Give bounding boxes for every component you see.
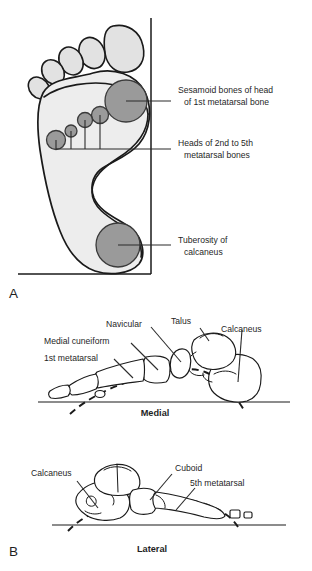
lateral-cuboid-label: Cuboid xyxy=(175,463,202,473)
sesamoid-callout-line2: of 1st metatarsal bone xyxy=(184,97,269,107)
medial-talus-label: Talus xyxy=(171,316,191,326)
medial-cuneiform-bone xyxy=(143,356,170,383)
panel-b-letter: B xyxy=(9,544,18,559)
medial-sesamoid-bone xyxy=(95,391,105,398)
lateral-fifth-distal-phalanx xyxy=(244,512,252,518)
lateral-fifth-metatarsal-bone xyxy=(153,492,225,519)
lateral-fifth-proximal-phalanx xyxy=(230,510,240,518)
sesamoid-callout-line1: Sesamoid bones of head xyxy=(178,85,273,95)
medial-cuneiform-label: Medial cuneiform xyxy=(44,336,109,346)
panel-a-group: Sesamoid bones of head of 1st metatarsal… xyxy=(9,18,273,301)
medial-calcaneus-label: Calcaneus xyxy=(221,324,262,334)
lateral-fifth-metatarsal-label: 5th metatarsal xyxy=(190,478,245,488)
great-toe xyxy=(104,25,143,72)
medial-hallux-proximal-phalanx xyxy=(68,374,98,395)
lateral-view-label: Lateral xyxy=(137,544,167,554)
calcaneal-tuberosity-callout-line1: Tuberosity of xyxy=(178,235,228,245)
foot-anatomy-illustration: Sesamoid bones of head of 1st metatarsal… xyxy=(0,0,312,571)
lateral-calcaneus-label: Calcaneus xyxy=(31,468,72,478)
metatarsal-heads-callout-line1: Heads of 2nd to 5th xyxy=(178,138,253,148)
anatomy-figure: Sesamoid bones of head of 1st metatarsal… xyxy=(0,0,312,571)
metatarsal-heads-callout-line2: metatarsal bones xyxy=(184,150,250,160)
medial-talus-bone xyxy=(192,333,236,369)
panel-b-lateral-group: Calcaneus Cuboid 5th metatarsal Lateral … xyxy=(9,463,286,559)
medial-first-metatarsal-label: 1st metatarsal xyxy=(44,353,98,363)
medial-first-metatarsal-bone xyxy=(94,359,144,388)
panel-b-medial-group: Talus Calcaneus Navicular Medial cuneifo… xyxy=(38,316,290,418)
medial-view-label: Medial xyxy=(141,408,170,418)
medial-navicular-label: Navicular xyxy=(106,319,142,329)
medial-hallux-distal-phalanx xyxy=(49,385,71,398)
panel-a-letter: A xyxy=(9,286,18,301)
calcaneal-tuberosity-callout-line2: calcaneus xyxy=(184,247,223,257)
